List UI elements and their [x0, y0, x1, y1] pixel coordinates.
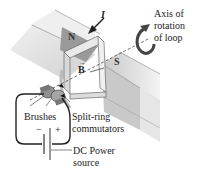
battery-icon	[44, 128, 50, 160]
battery-minus-label: −	[36, 124, 42, 135]
power-source-label-line1: DC Power	[73, 145, 115, 156]
axis-label-line3: of loop	[154, 32, 183, 43]
north-pole-label: N	[68, 31, 75, 42]
axis-label-line1: Axis of	[154, 8, 184, 19]
brushes-label: Brushes	[24, 111, 56, 122]
vector-arrow-icon: →	[79, 59, 86, 67]
commutators-label-line2: commutators	[72, 123, 124, 134]
rotation-arrow-icon	[137, 24, 154, 53]
b-field-label: → B	[78, 64, 85, 75]
current-label: I	[101, 9, 105, 20]
south-pole-label: S	[114, 56, 120, 67]
commutators-label-line1: Split-ring	[72, 111, 110, 122]
power-source-label-line2: source	[73, 157, 99, 168]
axis-label-line2: rotation	[154, 20, 185, 31]
battery-plus-label: +	[55, 124, 61, 135]
